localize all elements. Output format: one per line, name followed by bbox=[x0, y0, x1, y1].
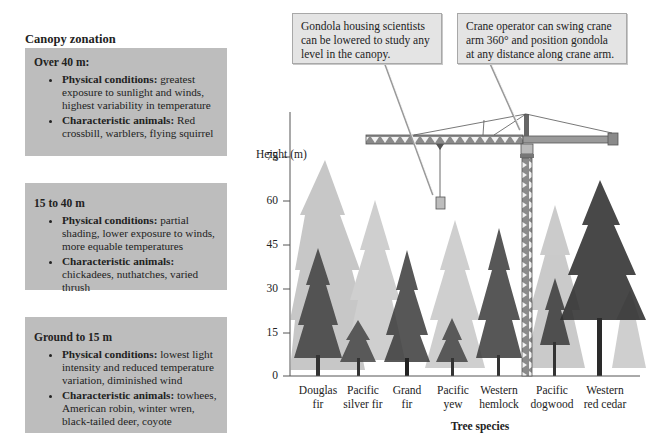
gondola-callout: Gondola housing scientists can be lowere… bbox=[292, 13, 442, 64]
operator-cab bbox=[521, 144, 533, 154]
y-tick-0: 0 bbox=[248, 369, 278, 381]
crane-jib bbox=[366, 135, 523, 144]
y-tick-60: 60 bbox=[248, 194, 278, 206]
gondola bbox=[436, 197, 445, 209]
species-western-red-cedar: Westernred cedar bbox=[565, 383, 645, 411]
callout-pointers bbox=[385, 63, 521, 195]
crane-callout: Crane operator can swing crane arm 360° … bbox=[457, 13, 627, 64]
counterweight bbox=[608, 133, 618, 145]
canopy-crane-illustration bbox=[0, 0, 646, 446]
y-tick-15: 15 bbox=[248, 326, 278, 338]
crane-counter-jib bbox=[523, 136, 613, 143]
y-tick-75: 75 bbox=[248, 150, 278, 162]
crane-mast-top bbox=[524, 114, 529, 136]
y-tick-45: 45 bbox=[248, 238, 278, 250]
x-axis-title: Tree species bbox=[420, 420, 540, 432]
y-tick-30: 30 bbox=[248, 282, 278, 294]
crane-tower bbox=[522, 158, 532, 376]
